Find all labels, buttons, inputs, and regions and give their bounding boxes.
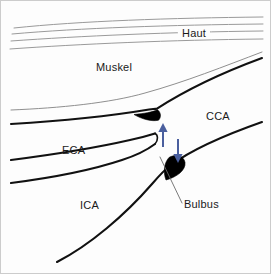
label-muscle: Muskel: [96, 61, 132, 73]
label-common-carotid: CCA: [206, 110, 230, 122]
label-skin: Haut: [178, 27, 210, 39]
label-internal-carotid: ICA: [80, 199, 99, 211]
figure-border: [1, 1, 271, 274]
label-external-carotid: ECA: [62, 144, 85, 156]
carotid-bifurcation-diagram: Haut Muskel CCA ECA ICA Bulbus: [0, 0, 271, 274]
diagram-canvas: [0, 0, 271, 274]
label-bulb: Bulbus: [184, 198, 219, 210]
